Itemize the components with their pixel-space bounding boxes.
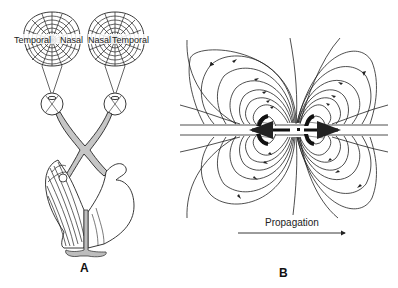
left-visual-cortex [46, 160, 85, 248]
right-field-nasal-label: Nasal [88, 35, 111, 45]
panel-a: Temporal Nasal Nasal Temporal [14, 12, 149, 275]
right-visual-cortex [88, 164, 134, 248]
right-field-temporal-label: Temporal [112, 35, 149, 45]
left-field-nasal-label: Nasal [60, 35, 83, 45]
lgn-left [59, 174, 67, 182]
right-visual-field-map [88, 12, 144, 96]
panel-a-label: A [80, 261, 89, 275]
figure-canvas: Temporal Nasal Nasal Temporal [0, 0, 398, 288]
left-visual-field-map [24, 12, 80, 96]
panel-b-label: B [279, 266, 288, 280]
axial-current-arrows [252, 126, 344, 134]
propagation-label: Propagation [265, 217, 319, 228]
panel-b: Propagation B [180, 38, 388, 280]
left-field-temporal-label: Temporal [14, 35, 51, 45]
right-eye [104, 93, 126, 115]
